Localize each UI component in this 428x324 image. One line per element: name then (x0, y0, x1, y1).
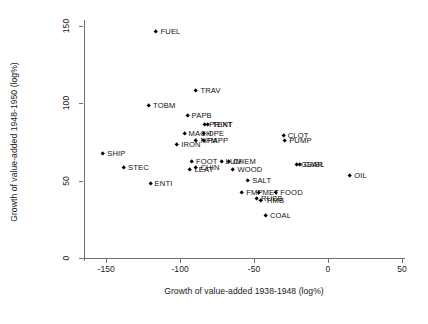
y-tick-label: 150 (61, 19, 71, 33)
x-tick-label: 0 (326, 264, 331, 274)
x-tick-label: -150 (97, 264, 114, 274)
scatter-chart: -150-100-50050 050100150 Growth of value… (0, 0, 428, 324)
plot-area (84, 23, 402, 258)
y-tick (79, 26, 83, 27)
data-point-label: STEC (128, 163, 149, 172)
x-tick (254, 259, 255, 263)
y-axis-title: Growth of value-added 1948-1950 (log%) (9, 62, 19, 222)
data-point-label: PAPB (192, 111, 212, 120)
data-point-label: SHIP (107, 149, 125, 158)
x-axis-title: Growth of value-added 1938-1948 (log%) (164, 286, 324, 296)
data-point-label: OIL (354, 171, 367, 180)
data-point-label: COAL (270, 211, 291, 220)
y-tick (79, 181, 83, 182)
data-point-label: CABL (304, 160, 324, 169)
y-tick-label: 0 (61, 256, 71, 261)
data-point-label: PUMP (289, 136, 312, 145)
y-tick-label: 50 (61, 176, 71, 186)
data-point-label: TEXT (212, 120, 232, 129)
data-point-label: FUEL (160, 27, 180, 36)
data-point-label: TOBM (153, 101, 175, 110)
data-point-label: PAPP (208, 136, 228, 145)
data-point-label: TIMB (265, 196, 284, 205)
y-tick-label: 100 (61, 96, 71, 110)
data-point-label: IRON (181, 140, 201, 149)
x-tick (106, 259, 107, 263)
data-point-label: ENTI (155, 179, 173, 188)
x-axis-line (81, 258, 405, 259)
x-tick-label: -100 (171, 264, 188, 274)
data-point-label: CHIN (200, 163, 219, 172)
data-point-label: WOOD (237, 165, 262, 174)
x-tick-label: 50 (397, 264, 407, 274)
x-tick (402, 259, 403, 263)
y-tick (79, 103, 83, 104)
data-point-label: SALT (252, 176, 271, 185)
data-point-label: TRAV (200, 86, 220, 95)
x-tick-label: -50 (248, 264, 261, 274)
x-tick (328, 259, 329, 263)
y-tick (79, 258, 83, 259)
x-tick (180, 259, 181, 263)
